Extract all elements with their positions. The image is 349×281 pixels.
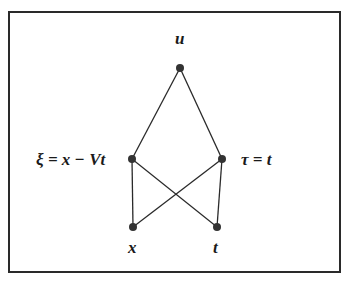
node-t — [213, 223, 221, 231]
label-u: u — [175, 29, 184, 49]
edge-u-xi — [132, 68, 180, 159]
label-x: x — [128, 238, 137, 258]
label-tau: τ = t — [241, 150, 271, 170]
node-tau — [218, 155, 226, 163]
node-x — [129, 223, 137, 231]
label-t: t — [213, 238, 218, 258]
label-xi: ξ = x − Vt — [36, 150, 105, 170]
edge-tau-x — [133, 159, 222, 227]
edge-xi-t — [132, 159, 217, 227]
node-u — [176, 64, 184, 72]
edge-tau-t — [217, 159, 222, 227]
edge-u-tau — [180, 68, 222, 159]
edge-xi-x — [132, 159, 133, 227]
node-xi — [128, 155, 136, 163]
